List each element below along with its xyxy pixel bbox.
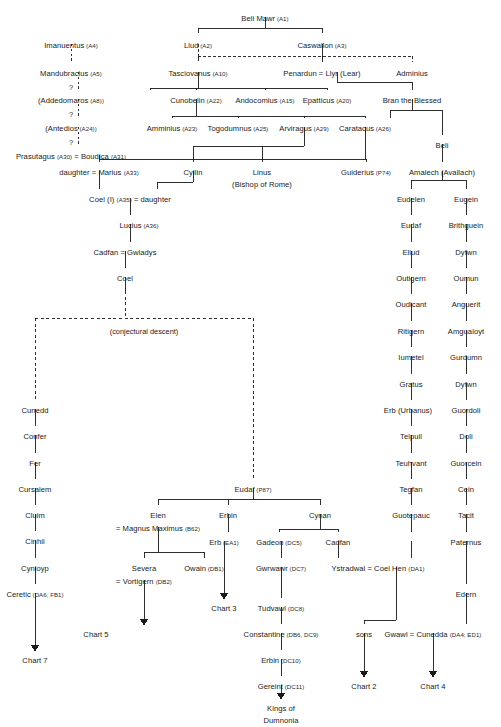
node-name: Confer <box>23 432 46 441</box>
node-name: Bran the Blessed <box>383 96 442 105</box>
person-node-antedios: (Antedios (A24)) <box>45 124 97 133</box>
node-name: Erb <box>209 538 221 547</box>
node-name: Lucius <box>119 221 141 230</box>
person-node-cursalem: Cursalem <box>19 485 52 494</box>
node-name: Eudaf <box>401 221 421 230</box>
node-ref: (A35) <box>117 196 132 203</box>
person-node-elen: Elen <box>150 511 165 520</box>
node-name: Eudelen <box>397 195 425 204</box>
person-node-coel_i: Coel (I) (A35) = daughter <box>89 195 171 204</box>
node-ref: (A1) <box>275 15 288 22</box>
person-node-andocomius: Andocomius (A15) <box>235 96 294 105</box>
node-ref: (A30) <box>57 153 72 160</box>
node-name: Linus <box>253 168 271 177</box>
node-name: Cinhil <box>25 537 44 546</box>
person-node-bran: Bran the Blessed <box>383 96 442 105</box>
connector-lines <box>0 0 501 727</box>
node-ref: (A20) <box>334 97 351 104</box>
node-name: Eudaf <box>234 485 254 494</box>
person-node-erbin_dc10: Erbin (DC10) <box>261 656 301 665</box>
person-node-guordoli: Guordoli <box>451 406 480 415</box>
node-name: Llud <box>184 41 199 50</box>
person-node-caratacus: Caratacus (A26) <box>339 124 391 133</box>
node-name: Fer <box>29 459 41 468</box>
node-name: Chart 3 <box>211 604 236 613</box>
node-name: = Boudica <box>72 152 111 161</box>
node-name: Teuhvant <box>395 459 426 468</box>
person-node-kings_dumnonia_2: Dumnonia <box>263 716 298 725</box>
node-name: Cynloyp <box>21 564 49 573</box>
person-node-cynloyp: Cynloyp <box>21 564 49 573</box>
node-ref: (DA4; ED1) <box>450 631 482 638</box>
node-name: Cyllin <box>184 168 203 177</box>
node-name: Coel (I) <box>89 195 116 204</box>
person-node-adminius: Adminius <box>396 69 428 78</box>
person-node-cadfan_gwladys: Cadfan = Gwladys <box>93 248 156 257</box>
node-name: Ceretic <box>6 590 30 599</box>
person-node-gereint: Gereint (DC11) <box>258 682 305 691</box>
person-node-cein: Cein <box>458 485 474 494</box>
node-ref: (A15) <box>278 97 295 104</box>
node-ref: (A33) <box>124 169 139 176</box>
node-name: Amminius <box>147 124 181 133</box>
node-name: Arviragus <box>279 124 312 133</box>
node-name: Guorcein <box>450 459 481 468</box>
person-node-cunobelin: Cunobelin (A22) <box>170 96 222 105</box>
person-node-anguerit: Anguerit <box>452 300 481 309</box>
person-node-cunedd: Cunedd <box>22 406 49 415</box>
person-node-imanuentus: Imanuentus (A4) <box>44 41 98 50</box>
person-node-ystradwal_coelhen: Ystradwal = Coel Hen (DA1) <box>332 564 425 573</box>
node-name: Dyfwn <box>455 248 476 257</box>
node-name: Cunobelin <box>170 96 205 105</box>
node-ref: (DC7) <box>288 565 306 572</box>
person-node-erb_urbanus: Erb (Urbanus) <box>384 406 432 415</box>
person-node-dyfwn1: Dyfwn <box>455 248 476 257</box>
node-name: Owain <box>184 564 206 573</box>
person-node-teuhvant: Teuhvant <box>395 459 426 468</box>
node-ref: (P74) <box>374 169 391 176</box>
person-node-beli_mawr: Beli Mawr (A1) <box>241 14 288 23</box>
person-node-confer: Confer <box>23 432 46 441</box>
node-name: Caswallon <box>298 41 333 50</box>
person-node-chart7: Chart 7 <box>22 656 47 665</box>
node-name: Gereint <box>258 682 283 691</box>
node-name: Cadfan = Gwladys <box>93 248 156 257</box>
node-ref: (P87) <box>255 486 272 493</box>
node-ref: (A31) <box>111 153 126 160</box>
person-node-cinhil: Cinhil <box>25 537 44 546</box>
person-node-cyllin: Cyllin <box>184 168 203 177</box>
person-node-prasutagus_boudica: Prasutagus (A30) = Boudica (A31) <box>16 152 126 161</box>
person-node-magnus_maximus: = Magnus Maximus (B62) <box>116 524 200 533</box>
person-node-caswallon: Caswallon (A3) <box>298 41 347 50</box>
node-ref: (A3) <box>333 42 346 49</box>
person-node-lucius: Lucius (A36) <box>119 221 158 230</box>
person-node-epatticus: Epatticus (A20) <box>303 96 352 105</box>
node-name: = daughter <box>132 195 171 204</box>
node-name: Eugein <box>454 195 478 204</box>
node-name: Ystradwal = Coel Hen <box>332 564 409 573</box>
uncertainty-marker-q3: ? <box>69 138 73 147</box>
node-name: Oumun <box>453 274 478 283</box>
node-name: Edern <box>456 590 477 599</box>
person-node-penardun_llyr: Penardun = Llyr (Lear) <box>283 69 360 78</box>
node-name: Amgualoyt <box>448 327 484 336</box>
person-node-oudicant: Oudicant <box>396 300 427 309</box>
person-node-erb_ea1: Erb (EA1) <box>209 538 239 547</box>
node-ref: (A29) <box>312 125 329 132</box>
person-node-vortigern: = Vortigern (DB2) <box>116 577 172 586</box>
node-name: Andocomius <box>235 96 277 105</box>
node-name: Erb (Urbanus) <box>384 406 432 415</box>
node-ref: (B62) <box>185 525 200 532</box>
node-name: Oudicant <box>396 300 427 309</box>
person-node-chart5: Chart 5 <box>83 630 108 639</box>
person-node-eudaf_r: Eudaf <box>401 221 421 230</box>
node-name: Togodumnus <box>208 124 252 133</box>
node-name: = Magnus Maximus <box>116 524 185 533</box>
person-node-tegfan: Tegfan <box>399 485 422 494</box>
person-node-tasciovanus: Tasciovanus (A10) <box>168 69 227 78</box>
node-name: Brithguein <box>449 221 484 230</box>
person-node-gratus: Gratus <box>399 380 422 389</box>
person-node-cluim: Cluim <box>25 511 45 520</box>
person-node-owain: Owain (DB1) <box>184 564 224 573</box>
node-name: Cluim <box>25 511 45 520</box>
